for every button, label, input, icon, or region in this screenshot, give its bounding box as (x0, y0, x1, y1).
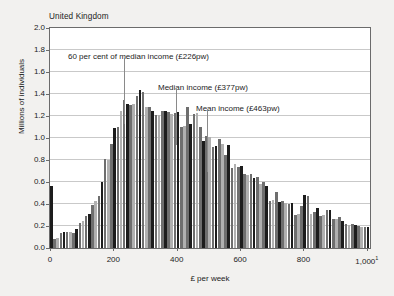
bar-series (50, 28, 370, 248)
x-tick-mark (113, 248, 114, 251)
y-tick-mark (46, 204, 49, 205)
y-tick-mark (46, 28, 49, 29)
x-tick-mark (303, 248, 304, 251)
y-tick-mark (46, 94, 49, 95)
x-tick-label: 0 (30, 255, 70, 264)
y-tick-mark (46, 160, 49, 161)
x-axis-label: £ per week (49, 274, 371, 283)
x-tick-label: 1,0001 (347, 255, 387, 266)
y-tick-label: 0.6 (15, 177, 45, 186)
x-tick-label: 800 (283, 255, 323, 264)
y-tick-label: 0.2 (15, 221, 45, 230)
annotation-label-mean-income: Mean income (£463pw) (196, 104, 280, 113)
y-tick-mark (46, 226, 49, 227)
x-tick-mark (50, 248, 51, 251)
bar (370, 228, 371, 248)
annotation-label-median-income: Median income (£377pw) (158, 83, 248, 92)
y-tick-mark (46, 138, 49, 139)
x-tick-mark (177, 248, 178, 251)
y-tick-mark (46, 182, 49, 183)
x-tick-mark (367, 248, 368, 251)
x-tick-mark (240, 248, 241, 251)
income-distribution-chart: United Kingdom 0.00.20.40.60.81.01.21.41… (0, 0, 394, 296)
annotation-label-sixty-percent-median: 60 per cent of median income (£226pw) (68, 52, 209, 61)
x-tick-label: 200 (93, 255, 133, 264)
y-tick-mark (46, 50, 49, 51)
y-tick-mark (46, 248, 49, 249)
x-tick-label: 400 (157, 255, 197, 264)
annotation-line-sixty-percent-median (124, 58, 125, 124)
y-axis-label: Millions of individuals (17, 27, 26, 167)
annotation-line-median-income (176, 89, 177, 145)
y-tick-label: 0.0 (15, 243, 45, 252)
y-tick-label: 0.4 (15, 199, 45, 208)
x-tick-label: 600 (220, 255, 260, 264)
y-tick-mark (46, 116, 49, 117)
y-tick-mark (46, 72, 49, 73)
chart-title: United Kingdom (49, 12, 109, 21)
annotation-line-mean-income (207, 110, 208, 172)
footnote-marker: 1 (375, 255, 378, 261)
